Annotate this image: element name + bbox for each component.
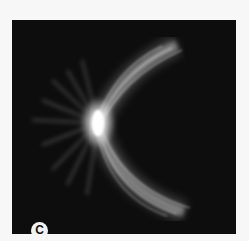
fiber-rendering [12,20,236,234]
panel-label-badge: C [31,222,48,234]
image-panel: C [12,20,236,234]
